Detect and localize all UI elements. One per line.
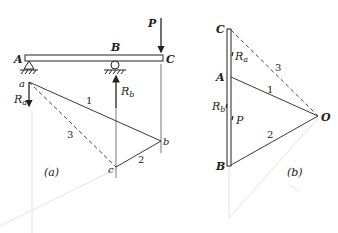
label-Rb-b: Rb: [211, 100, 225, 114]
figure-b: C A B O Ra Rb P 1 2 3 (b): [211, 23, 331, 179]
label-B-b: B: [215, 160, 225, 173]
ray-1: [231, 77, 318, 116]
label-P-b: P: [235, 114, 244, 127]
label-Ra: Ra: [13, 93, 27, 107]
funicular-polygon-diagram: A B C P a b c Ra Rb 1 2 3 (a) C A B O Ra…: [0, 0, 338, 233]
roller-support-icon: [104, 61, 126, 74]
string-1: [29, 82, 161, 141]
label-line-3: 3: [67, 129, 73, 140]
label-ray-1: 1: [267, 84, 273, 95]
label-a: a: [19, 78, 25, 89]
label-Ra-b: Ra: [234, 50, 248, 64]
label-B: B: [110, 41, 120, 54]
label-O: O: [321, 111, 331, 124]
label-A-b: A: [215, 71, 225, 84]
closing-line-3: [29, 82, 116, 167]
beam: [25, 55, 163, 61]
p-tick-icon: [232, 116, 233, 120]
label-c: c: [108, 164, 114, 175]
label-line-1: 1: [86, 95, 92, 106]
caption-b: (b): [287, 166, 303, 179]
ray-3: [231, 30, 318, 116]
label-A: A: [13, 53, 23, 66]
label-P: P: [147, 17, 157, 30]
label-C-b: C: [216, 23, 225, 36]
load-line: [227, 29, 231, 166]
label-b: b: [163, 136, 169, 147]
label-ray-2: 2: [267, 129, 273, 140]
figure-a: A B C P a b c Ra Rb 1 2 3 (a): [13, 17, 175, 179]
ray-2: [231, 116, 318, 165]
caption-a: (a): [44, 166, 59, 179]
pin-support-icon: [20, 61, 38, 74]
label-Rb: Rb: [120, 85, 134, 99]
ra-tick-icon: [232, 52, 233, 56]
label-line-2: 2: [138, 154, 144, 165]
label-ray-3: 3: [275, 62, 281, 73]
label-C: C: [166, 53, 175, 66]
